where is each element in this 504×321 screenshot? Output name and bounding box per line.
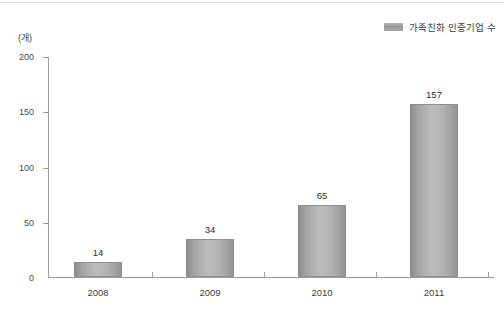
x-axis-label-2010: 2010 <box>311 287 332 298</box>
bar-2008[interactable]: 14 2008 <box>74 262 122 278</box>
y-tick-label-0: 0 <box>29 273 34 283</box>
chart-legend: 가족친화 인증기업 수 <box>384 20 496 34</box>
bar-2009[interactable]: 34 2009 <box>186 239 234 277</box>
bar-value-2009: 34 <box>205 224 216 235</box>
plot-area: 200 150 100 50 0 14 2008 34 2009 65 20 <box>48 57 494 278</box>
y-tick-200: 200 <box>43 57 49 58</box>
bar-2011[interactable]: 157 2011 <box>410 104 458 278</box>
y-tick-0: 0 <box>43 278 49 279</box>
legend-color-swatch <box>384 23 403 31</box>
x-tick-1 <box>152 272 153 278</box>
y-tick-label-200: 200 <box>19 52 34 62</box>
x-tick-4 <box>488 272 489 278</box>
x-axis-label-2008: 2008 <box>87 287 108 298</box>
y-tick-150: 150 <box>43 112 49 113</box>
bar-value-2008: 14 <box>93 247 104 258</box>
x-axis-label-2009: 2009 <box>199 287 220 298</box>
y-tick-label-150: 150 <box>19 107 34 117</box>
bar-chart-figure: 가족친화 인증기업 수 (개) 200 150 100 50 0 14 200 <box>0 0 504 321</box>
y-tick-100: 100 <box>43 168 49 169</box>
x-tick-3 <box>376 272 377 278</box>
top-divider-rule <box>0 2 504 3</box>
y-axis-unit-label: (개) <box>18 31 32 44</box>
bar-2010[interactable]: 65 2010 <box>298 205 346 277</box>
x-axis-label-2011: 2011 <box>424 287 444 298</box>
legend-label: 가족친화 인증기업 수 <box>409 20 496 34</box>
y-tick-label-100: 100 <box>19 163 34 173</box>
y-tick-label-50: 50 <box>24 218 34 228</box>
x-axis-line <box>48 277 494 278</box>
x-tick-2 <box>264 272 265 278</box>
y-tick-50: 50 <box>43 223 49 224</box>
bar-value-2011: 157 <box>426 89 442 100</box>
bar-value-2010: 65 <box>317 190 328 201</box>
